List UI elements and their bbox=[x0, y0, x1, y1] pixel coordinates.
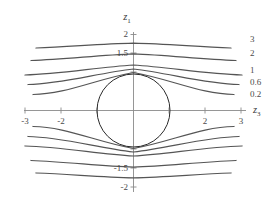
x-tick-label-3: 3 bbox=[239, 116, 244, 126]
x-tick-label--3: -3 bbox=[21, 116, 29, 126]
y-tick-label--1.5: -1.5 bbox=[114, 163, 129, 173]
y-axis-label: z1 bbox=[122, 11, 131, 25]
contour-label-0.2: 0.2 bbox=[250, 89, 261, 99]
y-axis-label-subscript: 1 bbox=[127, 17, 131, 25]
contour-label-2: 2 bbox=[250, 48, 255, 58]
y-tick-label-1.5: 1.5 bbox=[117, 48, 129, 58]
x-axis-label-subscript: 3 bbox=[257, 110, 261, 118]
contour-label-1: 1 bbox=[250, 65, 255, 75]
x-axis-label: z3 bbox=[252, 104, 261, 118]
x-tick-label-2: 2 bbox=[203, 116, 208, 126]
x-tick-label--2: -2 bbox=[57, 116, 65, 126]
contour-label-0.6: 0.6 bbox=[250, 77, 262, 87]
y-tick-label-2: 2 bbox=[124, 29, 129, 39]
y-tick-label--2: -2 bbox=[121, 182, 129, 192]
plot-canvas: -3 -2 2 3 2 1.5 -1.5 -2 3 2 1 0.6 0.2 z1… bbox=[0, 0, 273, 207]
contour-label-3: 3 bbox=[250, 34, 255, 44]
streamline-plot-figure: -3 -2 2 3 2 1.5 -1.5 -2 3 2 1 0.6 0.2 z1… bbox=[0, 0, 273, 207]
